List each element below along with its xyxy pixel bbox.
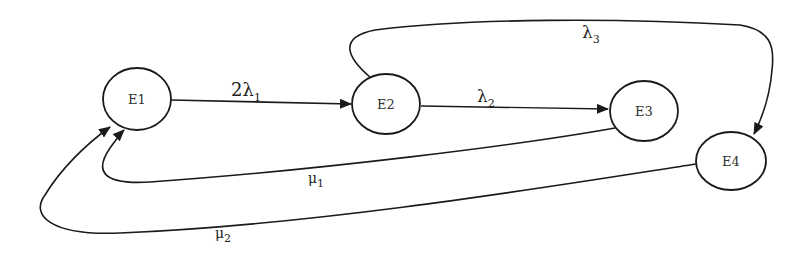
state-diagram: 2λ1 λ2 λ3 μ1 μ2 E1 E2 E3 E4 [0, 0, 806, 256]
edge-label-e4-e1: μ2 [215, 225, 231, 245]
edge-label-e3-e1: μ1 [308, 170, 324, 190]
edge-e1-e2: 2λ1 [171, 79, 351, 104]
edge-e2-e3: λ2 [421, 86, 608, 110]
edge-e3-e1: μ1 [103, 128, 615, 190]
edge-label-e2-e4: λ3 [582, 22, 600, 46]
node-e4: E4 [696, 132, 766, 190]
node-label-e1: E1 [128, 92, 146, 107]
node-e2: E2 [352, 74, 420, 134]
node-e1: E1 [103, 68, 171, 130]
edge-e4-e1: μ2 [40, 127, 696, 245]
node-label-e3: E3 [635, 104, 653, 119]
edge-label-e1-e2: 2λ1 [231, 79, 261, 104]
node-label-e4: E4 [722, 154, 740, 169]
node-label-e2: E2 [377, 97, 395, 112]
node-e3: E3 [610, 81, 678, 141]
